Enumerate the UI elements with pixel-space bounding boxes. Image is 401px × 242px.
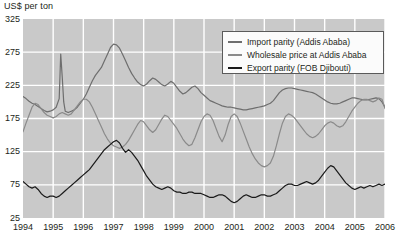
y-axis-tick-label: 225 (5, 81, 20, 90)
legend-item: Wholesale price at Addis Ababa (228, 49, 378, 61)
x-axis-tick-label: 2002 (254, 222, 274, 232)
y-axis-tick-labels: 2575125175225275325 (0, 0, 20, 242)
legend-item: Import parity (Addis Ababa) (228, 36, 378, 48)
y-axis-tick-label: 275 (5, 48, 20, 57)
y-axis-tick-label: 325 (5, 15, 20, 24)
price-parity-line-chart: US$ per ton 2575125175225275325 19941995… (0, 0, 401, 242)
x-axis-tick-label: 1996 (73, 222, 93, 232)
x-axis-tick-label: 1999 (164, 222, 184, 232)
x-axis-tick-label: 2001 (224, 222, 244, 232)
legend-color-swatch (228, 54, 242, 56)
x-axis-tick-label: 2005 (345, 222, 365, 232)
x-axis-tick-label: 2006 (375, 222, 395, 232)
x-axis-tick-labels: 1994199519961997199819992000200120022003… (23, 222, 385, 236)
x-axis-tick-label: 2003 (284, 222, 304, 232)
x-axis-tick-label: 1997 (103, 222, 123, 232)
legend-item-label: Import parity (Addis Ababa) (247, 38, 350, 47)
y-axis-tick-label: 125 (5, 147, 20, 156)
x-axis-tick-label: 1995 (43, 222, 63, 232)
x-axis-tick-label: 2004 (315, 222, 335, 232)
x-axis-tick-label: 2000 (194, 222, 214, 232)
y-axis-tick-label: 75 (10, 180, 20, 189)
legend-item: Export parity (FOB Djibouti) (228, 62, 378, 74)
chart-legend: Import parity (Addis Ababa)Wholesale pri… (222, 31, 384, 74)
legend-item-label: Export parity (FOB Djibouti) (247, 64, 351, 73)
x-axis-tick-label: 1998 (134, 222, 154, 232)
y-axis-tick-label: 175 (5, 114, 20, 123)
legend-color-swatch (228, 41, 242, 43)
legend-item-label: Wholesale price at Addis Ababa (247, 51, 367, 60)
x-axis-tick-label: 1994 (13, 222, 33, 232)
legend-color-swatch (228, 67, 242, 69)
